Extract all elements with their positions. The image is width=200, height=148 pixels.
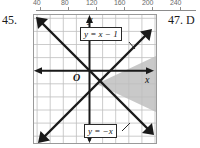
cropped-axis-strip: 40 80 120 160 200 240 bbox=[0, 0, 200, 12]
equation-callout-line2: y = −x bbox=[84, 124, 117, 138]
cropped-axis-tick bbox=[152, 7, 153, 10]
x-axis-label: x bbox=[145, 74, 149, 85]
cropped-tick-label-200: 200 bbox=[142, 0, 153, 6]
equation-callout-line1: y = x − 1 bbox=[80, 27, 122, 41]
cropped-axis-tick bbox=[124, 7, 125, 10]
cropped-tick-label-160: 160 bbox=[114, 0, 125, 6]
cropped-tick-label-40: 40 bbox=[33, 0, 40, 6]
cropped-axis-tick bbox=[68, 7, 69, 10]
origin-label: O bbox=[73, 72, 80, 83]
cropped-axis-tick bbox=[96, 7, 97, 10]
cropped-tick-label-80: 80 bbox=[61, 0, 68, 6]
y-axis-label: y bbox=[88, 14, 92, 25]
cropped-tick-label-240: 240 bbox=[170, 0, 181, 6]
problem-number-45: 45. bbox=[2, 13, 17, 28]
cropped-axis-tick bbox=[180, 7, 181, 10]
problem-number-47: 47. D bbox=[168, 13, 195, 28]
page-root: 40 80 120 160 200 240 45. 47. D bbox=[0, 0, 200, 148]
cropped-axis-line bbox=[36, 10, 196, 11]
cropped-tick-label-120: 120 bbox=[86, 0, 97, 6]
cropped-axis-tick bbox=[40, 7, 41, 10]
